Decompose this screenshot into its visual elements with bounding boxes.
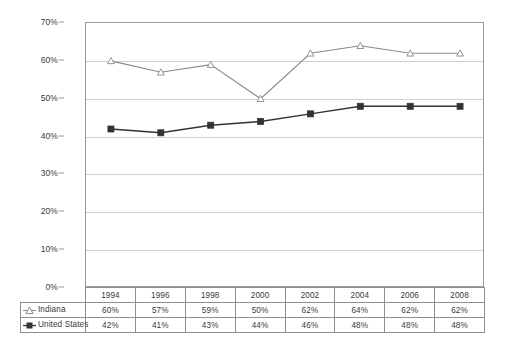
data-point-marker [357,103,363,109]
data-point-marker [207,61,214,67]
data-point-marker [208,122,214,128]
table-header-year: 2008 [435,288,485,303]
legend-inner: Indiana [23,306,85,315]
y-tick-mark [59,211,64,212]
table-row: United States42%41%43%44%46%48%48%48% [21,318,485,333]
table-cell-value: 50% [235,303,285,318]
table-cell-value: 48% [385,318,435,333]
table-header-year: 2002 [285,288,335,303]
y-tick-label: 20% [41,206,58,216]
line-chart: 0%10%20%30%40%50%60%70% 1994199619982000… [0,0,509,345]
table-header-year: 2004 [335,288,385,303]
data-point-marker [307,111,313,117]
y-tick-label: 60% [41,55,58,65]
table-header-year: 2000 [235,288,285,303]
table-header-year: 2006 [385,288,435,303]
table-cell-value: 46% [285,318,335,333]
table-header-year: 1996 [135,288,185,303]
data-table-body: 19941996199820002002200420062008Indiana6… [21,288,485,333]
legend-item-indiana[interactable]: Indiana [21,303,86,318]
table-cell-value: 62% [385,303,435,318]
table-header-year: 1998 [185,288,235,303]
legend-item-united-states[interactable]: United States [21,318,86,333]
table-cell-value: 44% [235,318,285,333]
table-cell-value: 42% [86,318,136,333]
y-tick-label: 50% [41,93,58,103]
legend-marker-triangle-icon [23,306,36,315]
table-cell-value: 62% [435,303,485,318]
table-header-year: 1994 [86,288,136,303]
legend-inner: United States [23,321,85,330]
table-cell-value: 64% [335,303,385,318]
y-tick-label: 10% [41,244,58,254]
y-tick-label: 70% [41,17,58,27]
table-cell-value: 57% [135,303,185,318]
data-point-marker [258,118,264,124]
data-point-marker [407,103,413,109]
data-point-marker [108,57,115,63]
plot-area [85,22,484,287]
table-cell-value: 62% [285,303,335,318]
y-tick-mark [59,59,64,60]
series-line-united-states [111,106,460,133]
data-point-marker [357,42,364,48]
table-cell-value: 41% [135,318,185,333]
data-point-marker [158,130,164,136]
table-cell-value: 48% [435,318,485,333]
series-layer [86,23,485,288]
legend-label: United States [38,321,88,329]
table-cell-value: 60% [86,303,136,318]
table-cell-value: 43% [185,318,235,333]
table-row: Indiana60%57%59%50%62%64%62%62% [21,303,485,318]
y-tick-mark [59,22,64,23]
data-table: 19941996199820002002200420062008Indiana6… [20,287,485,333]
table-cell-value: 48% [335,318,385,333]
legend-label: Indiana [38,306,66,314]
legend-marker-square-icon [23,321,36,330]
y-tick-mark [59,135,64,136]
table-cell-value: 59% [185,303,235,318]
y-tick-mark [59,173,64,174]
y-tick-mark [59,97,64,98]
y-tick-label: 40% [41,131,58,141]
data-point-marker [457,103,463,109]
data-point-marker [108,126,114,132]
table-row-header: 19941996199820002002200420062008 [21,288,485,303]
y-tick-label: 30% [41,168,58,178]
y-tick-mark [59,249,64,250]
table-corner-cell [21,288,86,303]
